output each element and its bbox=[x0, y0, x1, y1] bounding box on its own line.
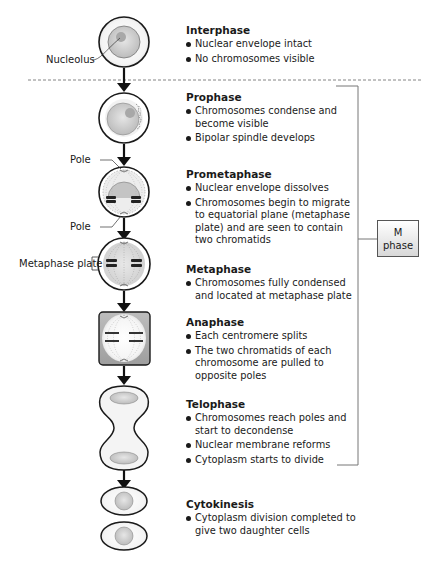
stage-metaphase: Metaphase Chromosomes fully condensed an… bbox=[186, 263, 356, 304]
stage-title: Prometaphase bbox=[186, 168, 356, 181]
pole-bottom-label: Pole bbox=[70, 221, 91, 233]
stage-anaphase: Anaphase Each centromere splits The two … bbox=[186, 316, 356, 384]
stage-title: Cytokinesis bbox=[186, 498, 356, 511]
stage-prophase: Prophase Chromosomes condense and become… bbox=[186, 91, 356, 147]
daughter-cell-top bbox=[101, 487, 147, 515]
nucleolus-label: Nucleolus bbox=[46, 54, 95, 66]
daughter-cell-bottom bbox=[101, 522, 147, 550]
stage-bullet: Cytoplasm division completed to give two… bbox=[186, 512, 356, 537]
stage-prometaphase: Prometaphase Nuclear envelope dissolves … bbox=[186, 168, 356, 249]
stage-bullet: Chromosomes condense and become visible bbox=[186, 105, 356, 130]
pole-bottom-leader-line bbox=[100, 216, 121, 227]
stage-bullet: Cytoplasm starts to divide bbox=[186, 454, 356, 467]
interphase-cell bbox=[99, 17, 149, 67]
metaphase-plate-label: Metaphase plate bbox=[19, 258, 103, 270]
stage-telophase: Telophase Chromosomes reach poles and st… bbox=[186, 398, 356, 468]
stage-bullet: Chromosomes fully condensed and located … bbox=[186, 277, 356, 302]
m-phase-box: M phase bbox=[377, 220, 419, 257]
stage-title: Interphase bbox=[186, 24, 356, 37]
stage-interphase: Interphase Nuclear envelope intact No ch… bbox=[186, 24, 356, 67]
stage-bullet: Nuclear envelope dissolves bbox=[186, 182, 356, 195]
stage-title: Prophase bbox=[186, 91, 356, 104]
telophase-cell bbox=[100, 386, 149, 470]
stage-bullet: Nuclear membrane reforms bbox=[186, 439, 356, 452]
stage-bullet: Chromosomes begin to migrate to equatori… bbox=[186, 197, 356, 247]
stage-title: Telophase bbox=[186, 398, 356, 411]
prophase-cell bbox=[99, 93, 149, 143]
metaphase-cell bbox=[98, 238, 150, 290]
stage-bullet: No chromosomes visible bbox=[186, 53, 356, 66]
stage-title: Anaphase bbox=[186, 316, 356, 329]
prometaphase-cell bbox=[99, 167, 149, 217]
stage-bullet: Chromosomes reach poles and start to dec… bbox=[186, 412, 356, 437]
stage-cytokinesis: Cytokinesis Cytoplasm division completed… bbox=[186, 498, 356, 539]
stage-bullet: Nuclear envelope intact bbox=[186, 38, 356, 51]
m-phase-line1: M bbox=[378, 226, 418, 239]
anaphase-cell bbox=[99, 312, 150, 365]
m-phase-line2: phase bbox=[378, 239, 418, 252]
stage-bullet: Bipolar spindle develops bbox=[186, 132, 356, 145]
pole-top-label: Pole bbox=[70, 154, 91, 166]
stage-bullet: The two chromatids of each chromosome ar… bbox=[186, 345, 356, 383]
stage-bullet: Each centromere splits bbox=[186, 330, 356, 343]
stage-title: Metaphase bbox=[186, 263, 356, 276]
